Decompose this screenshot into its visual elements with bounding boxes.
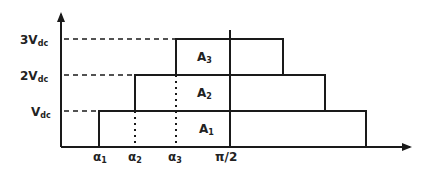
label-2vdc: 2Vdc (20, 69, 48, 84)
label-pi-half: π/2 (215, 150, 237, 164)
area-a1-rect (99, 111, 366, 147)
label-alpha1: α1 (93, 150, 107, 165)
label-3vdc: 3Vdc (20, 33, 48, 48)
staircase-diagram: 3Vdc 2Vdc Vdc α1 α2 α3 π/2 A3 A2 A1 (0, 0, 426, 171)
label-a2: A2 (197, 86, 212, 101)
label-alpha2: α2 (128, 150, 142, 165)
label-a1: A1 (199, 122, 214, 137)
label-alpha3: α3 (168, 150, 182, 165)
label-a3: A3 (197, 50, 212, 65)
label-vdc: Vdc (31, 105, 51, 120)
